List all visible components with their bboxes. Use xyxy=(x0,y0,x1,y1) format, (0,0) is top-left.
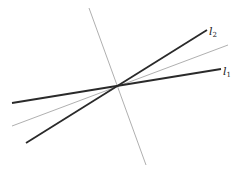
lines-figure: l2 l1 xyxy=(0,0,240,179)
diagram-canvas: l2 l1 xyxy=(0,0,240,179)
label-l1: l1 xyxy=(223,65,231,79)
line-l2 xyxy=(26,30,207,143)
label-l2: l2 xyxy=(209,25,217,39)
